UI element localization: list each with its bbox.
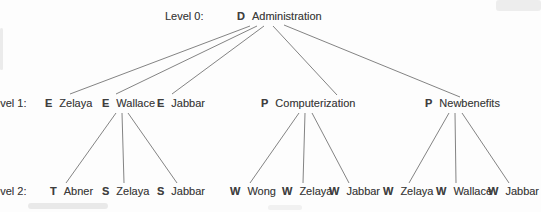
tree-node-w-jabbar: WJabbar	[329, 185, 380, 197]
tree-edge-10	[312, 113, 349, 183]
node-type-letter: W	[282, 185, 292, 197]
tree-edge-6	[122, 113, 124, 183]
level-label-1: Level 1:	[0, 97, 27, 109]
tree-node-e-zelaya: EZelaya	[45, 97, 92, 109]
node-type-letter: P	[425, 97, 432, 109]
tree-node-s-jabbar: SJabbar	[157, 185, 205, 197]
scan-artifact	[496, 0, 541, 11]
tree-node-p-computerization: PComputerization	[261, 97, 355, 109]
node-type-letter: W	[383, 185, 393, 197]
level-label-0: Level 0:	[165, 10, 204, 22]
node-name: Jabbar	[505, 185, 539, 197]
node-type-letter: E	[102, 97, 109, 109]
tree-node-s-zelaya: SZelaya	[102, 185, 149, 197]
tree-edge-9	[303, 113, 305, 183]
tree-edge-3	[273, 26, 337, 95]
tree-edge-12	[455, 113, 456, 183]
node-type-letter: S	[157, 185, 164, 197]
node-type-letter: W	[230, 185, 240, 197]
node-name: Zelaya	[116, 185, 149, 197]
scan-artifact	[0, 28, 3, 70]
node-type-letter: D	[237, 10, 245, 22]
node-type-letter: W	[488, 185, 498, 197]
tree-edge-11	[409, 113, 449, 183]
tree-edge-4	[284, 25, 460, 97]
tree-edge-5	[66, 113, 116, 183]
tree-node-e-jabbar: EJabbar	[157, 97, 205, 109]
node-name: Abner	[64, 185, 93, 197]
tree-node-d-administration: DAdministration	[237, 10, 322, 22]
node-name: Computerization	[275, 97, 355, 109]
scan-artifact	[268, 205, 302, 210]
node-name: Zelaya	[59, 97, 92, 109]
tree-edge-1	[116, 26, 257, 94]
node-name: Zelaya	[400, 185, 433, 197]
tree-node-w-jabbar: WJabbar	[488, 185, 539, 197]
node-name: Wallace	[453, 185, 492, 197]
tree-edge-7	[128, 113, 177, 183]
tree-node-e-wallace: EWallace	[102, 97, 155, 109]
node-type-letter: E	[45, 97, 52, 109]
node-name: Jabbar	[171, 185, 205, 197]
scan-artifact	[28, 203, 108, 209]
tree-node-w-zelaya: WZelaya	[383, 185, 433, 197]
node-name: Jabbar	[171, 97, 205, 109]
tree-edge-13	[462, 113, 509, 183]
tree-node-t-abner: TAbner	[50, 185, 93, 197]
tree-node-w-wallace: WWallace	[436, 185, 492, 197]
tree-edge-2	[172, 26, 264, 94]
node-name: Jabbar	[346, 185, 380, 197]
tree-node-w-zelaya: WZelaya	[282, 185, 332, 197]
tree-edge-8	[250, 113, 299, 183]
node-name: Zelaya	[299, 185, 332, 197]
node-type-letter: P	[261, 97, 268, 109]
node-name: Wong	[247, 185, 276, 197]
node-type-letter: W	[436, 185, 446, 197]
node-name: Administration	[252, 10, 322, 22]
tree-node-w-wong: WWong	[230, 185, 276, 197]
node-type-letter: T	[50, 185, 57, 197]
node-type-letter: S	[102, 185, 109, 197]
node-name: Newbenefits	[439, 97, 500, 109]
node-type-letter: W	[329, 185, 339, 197]
tree-node-p-newbenefits: PNewbenefits	[425, 97, 500, 109]
tree-edge-0	[70, 26, 250, 94]
node-name: Wallace	[116, 97, 155, 109]
level-label-2: Level 2:	[0, 185, 27, 197]
hierarchy-tree-diagram: Level 0:Level 1:Level 2:DAdministrationE…	[0, 0, 541, 212]
node-type-letter: E	[157, 97, 164, 109]
